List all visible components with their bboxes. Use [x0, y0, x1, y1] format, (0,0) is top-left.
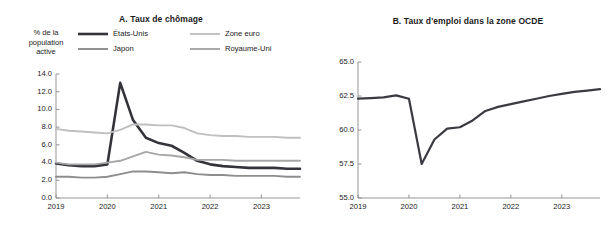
panel-b-xtick-2: 2021 — [444, 202, 476, 211]
series-line-0 — [358, 89, 600, 164]
series-line-1 — [56, 124, 300, 137]
panel-b-ytick-2: 60.0 — [324, 125, 354, 134]
panel-a-ytick-5: 10.0 — [22, 104, 52, 113]
panel-b-xtick-0: 2019 — [342, 202, 374, 211]
panel-a-ytick-4: 8.0 — [22, 122, 52, 131]
panel-b-xtick-1: 2020 — [393, 202, 425, 211]
panel-a-xtick-4: 2023 — [245, 202, 277, 211]
panel-b-employment-rate: B. Taux d'emploi dans la zone OCDE % de … — [304, 0, 608, 240]
panel-a-ytick-3: 6.0 — [22, 140, 52, 149]
series-line-2 — [56, 171, 300, 177]
panel-a-ytick-1: 2.0 — [22, 175, 52, 184]
panel-a-xtick-0: 2019 — [40, 202, 72, 211]
panel-a-ytick-7: 14.0 — [22, 69, 52, 78]
panel-a-ytick-0: 0.0 — [22, 193, 52, 202]
panel-a-unemployment-rate: A. Taux de chômage % de la population ac… — [0, 0, 304, 240]
panel-b-xtick-4: 2023 — [546, 202, 578, 211]
panel-a-xtick-2: 2021 — [143, 202, 175, 211]
panel-b-ytick-4: 65.0 — [324, 57, 354, 66]
series-line-3 — [56, 152, 300, 164]
panel-b-ytick-0: 55.0 — [324, 193, 354, 202]
panel-a-ytick-2: 4.0 — [22, 157, 52, 166]
panel-b-xtick-3: 2022 — [495, 202, 527, 211]
panel-a-xtick-3: 2022 — [194, 202, 226, 211]
panel-a-ytick-6: 12.0 — [22, 87, 52, 96]
panel-a-xtick-1: 2020 — [91, 202, 123, 211]
panel-b-ytick-1: 57.5 — [324, 159, 354, 168]
panel-b-ytick-3: 62.5 — [324, 91, 354, 100]
figure-unemployment-employment: A. Taux de chômage % de la population ac… — [0, 0, 608, 240]
